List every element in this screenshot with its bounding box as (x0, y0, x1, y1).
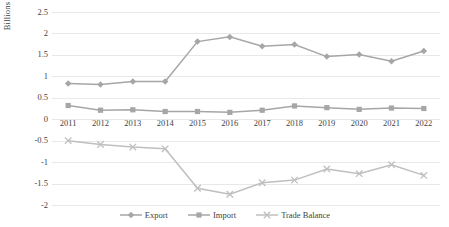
y-tick-label: 1.5 (8, 49, 48, 59)
y-tick-label: 1 (8, 71, 48, 81)
x-axis-tick-labels: 2011201220132014201520162017201820192020… (52, 118, 440, 132)
x-tick-label-2012: 2012 (84, 118, 118, 128)
diamond-marker-icon (421, 48, 428, 55)
diamond-marker-icon (291, 41, 298, 48)
x-tick-label-2018: 2018 (278, 118, 312, 128)
x-tick-label-2020: 2020 (342, 118, 376, 128)
legend-item-trade-balance[interactable]: Trade Balance (255, 210, 330, 220)
series-layer (52, 12, 440, 205)
square-marker-icon (196, 212, 201, 217)
x-tick-label-2017: 2017 (245, 118, 279, 128)
square-marker-icon (357, 107, 362, 112)
square-marker-icon (389, 105, 394, 110)
diamond-marker-icon (259, 43, 266, 50)
square-marker-icon (260, 108, 265, 113)
y-tick-label: -1 (8, 157, 48, 167)
legend-label: Trade Balance (281, 210, 330, 220)
y-tick-label: -1.5 (8, 178, 48, 188)
series-line (68, 37, 424, 85)
x-tick-label-2016: 2016 (213, 118, 247, 128)
y-tick-label: 0 (8, 114, 48, 124)
x-tick-label-2019: 2019 (310, 118, 344, 128)
legend-label: Import (213, 210, 236, 220)
diamond-marker-icon (388, 58, 395, 65)
chart-container: Billions 2.521.510.50-0.5-1-1.5-2 201120… (0, 0, 449, 227)
series-line (68, 141, 424, 195)
square-marker-icon (195, 109, 200, 114)
diamond-marker-icon (65, 80, 72, 87)
square-marker-icon (292, 103, 297, 108)
x-tick-label-2015: 2015 (181, 118, 215, 128)
legend-swatch-square-icon (187, 210, 211, 220)
square-marker-icon (227, 110, 232, 115)
x-tick-label-2014: 2014 (148, 118, 182, 128)
x-tick-label-2021: 2021 (375, 118, 409, 128)
square-marker-icon (421, 106, 426, 111)
diamond-marker-icon (97, 81, 104, 88)
chart-legend: ExportImportTrade Balance (0, 205, 449, 225)
square-marker-icon (163, 109, 168, 114)
diamond-marker-icon (324, 53, 331, 60)
y-axis-tick-labels: 2.521.510.50-0.5-1-1.5-2 (4, 12, 48, 205)
plot-area (52, 12, 440, 205)
legend-label: Export (145, 210, 168, 220)
square-marker-icon (66, 103, 71, 108)
legend-swatch-diamond-icon (119, 210, 143, 220)
x-tick-label-2013: 2013 (116, 118, 150, 128)
x-tick-label-2011: 2011 (51, 118, 85, 128)
diamond-marker-icon (130, 78, 137, 85)
square-marker-icon (324, 105, 329, 110)
diamond-marker-icon (128, 212, 135, 219)
legend-swatch-x-icon (255, 210, 279, 220)
square-marker-icon (130, 107, 135, 112)
y-tick-label: 0.5 (8, 92, 48, 102)
x-tick-label-2022: 2022 (407, 118, 441, 128)
diamond-marker-icon (227, 34, 234, 41)
legend-item-export[interactable]: Export (119, 210, 168, 220)
series-export (65, 34, 427, 88)
series-import (66, 103, 427, 115)
series-line (68, 106, 424, 113)
y-tick-label: -0.5 (8, 135, 48, 145)
legend-item-import[interactable]: Import (187, 210, 236, 220)
series-trade-balance (65, 137, 427, 197)
square-marker-icon (98, 108, 103, 113)
diamond-marker-icon (356, 51, 363, 58)
y-tick-label: 2.5 (8, 7, 48, 17)
y-tick-label: 2 (8, 28, 48, 38)
